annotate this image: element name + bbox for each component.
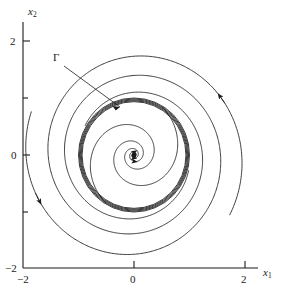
y-axis-label-subscript: 2 [33, 10, 37, 19]
y-tick-label-minus-2: −2 [5, 263, 17, 274]
y-tick-label-0: 0 [11, 150, 17, 161]
y-tick-label-2: 2 [10, 36, 16, 47]
equilibrium-point-marker [132, 153, 137, 158]
x-tick-label-2: 2 [241, 274, 247, 285]
x-axis-ticks [134, 261, 245, 268]
x-tick-label-minus-2: −2 [17, 274, 29, 285]
phase-portrait-figure: 2 0 −2 −2 0 2 x2 x1 Γ [0, 0, 284, 293]
flow-direction-arrow [219, 96, 224, 104]
phase-portrait-canvas [0, 0, 284, 293]
y-axis-label: x2 [28, 6, 37, 17]
x-tick-label-0: 0 [130, 274, 136, 285]
trajectory-inner-trajectory-a [114, 107, 178, 186]
x-axis-label-subscript: 1 [268, 271, 272, 280]
flow-direction-arrow [36, 193, 40, 202]
x-axis-label: x1 [263, 267, 272, 278]
limit-cycle-label: Γ [53, 52, 59, 63]
y-axis-ticks [23, 41, 30, 212]
trajectory-inner-trajectory-b [90, 125, 154, 204]
